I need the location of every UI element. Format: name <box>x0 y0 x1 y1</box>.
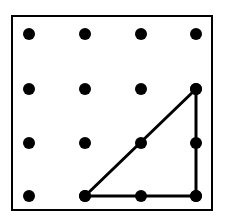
grid-peg-b3[interactable] <box>79 137 91 149</box>
geoboard-figure <box>0 0 225 223</box>
triangle-vertex-bottom-left[interactable] <box>79 190 91 202</box>
grid-peg-a3[interactable] <box>23 137 35 149</box>
grid-peg-d1[interactable] <box>190 28 202 40</box>
triangle-vertex-bottom-right[interactable] <box>190 190 202 202</box>
grid-peg-a1[interactable] <box>23 28 35 40</box>
grid-peg-a2[interactable] <box>23 83 35 95</box>
grid-peg-c2[interactable] <box>135 83 147 95</box>
grid-peg-a4[interactable] <box>23 190 35 202</box>
geoboard-canvas <box>0 0 225 223</box>
geoboard-frame <box>12 16 212 210</box>
grid-peg-b1[interactable] <box>79 28 91 40</box>
grid-peg-b2[interactable] <box>79 83 91 95</box>
triangle-vertex-top-right[interactable] <box>190 83 202 95</box>
grid-peg-c1[interactable] <box>135 28 147 40</box>
